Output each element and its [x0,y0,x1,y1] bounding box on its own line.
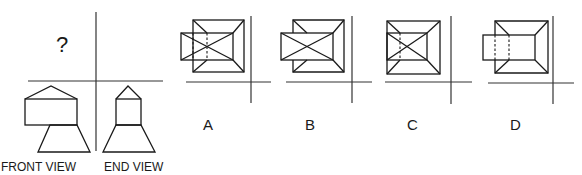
option-a-drawing[interactable] [181,16,271,103]
option-b-label[interactable]: B [305,116,315,133]
option-d-label[interactable]: D [510,116,521,133]
option-a-label[interactable]: A [203,116,213,133]
option-b-drawing[interactable] [281,16,372,103]
front-view-label: FRONT VIEW [1,160,76,174]
end-view-drawing [103,86,155,152]
option-d-drawing[interactable] [483,16,574,104]
diagram-canvas [0,0,582,175]
option-c-drawing[interactable] [385,16,472,104]
front-view-drawing [25,86,90,152]
end-view-label: END VIEW [104,160,163,174]
unknown-view-question-mark: ? [56,32,68,58]
option-c-label[interactable]: C [407,116,418,133]
